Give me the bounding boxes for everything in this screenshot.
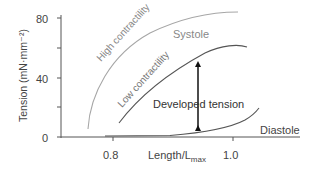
y-tick-label-80: 80: [36, 13, 48, 25]
high-contractility-curve: [88, 12, 238, 129]
x-tick-label-0.8: 0.8: [103, 149, 118, 161]
systole-label: Systole: [173, 28, 209, 40]
y-tick-label-40: 40: [36, 73, 48, 85]
high-contractility-label: High contractility: [94, 1, 151, 63]
x-tick-label-1.0: 1.0: [223, 149, 238, 161]
tension-length-chart: 80 40 0 Tension (mN·mm⁻²) 0.8 1.0 Length…: [0, 0, 318, 172]
y-tick-label-0: 0: [42, 132, 48, 144]
y-axis: 80 40 0 Tension (mN·mm⁻²): [17, 13, 61, 144]
developed-tension-label: Developed tension: [153, 98, 244, 110]
diastole-label: Diastole: [260, 124, 300, 136]
x-axis: 0.8 1.0 Length/Lmax: [57, 137, 300, 164]
x-axis-label: Length/Lmax: [148, 149, 206, 164]
y-axis-label: Tension (mN·mm⁻²): [17, 29, 29, 122]
